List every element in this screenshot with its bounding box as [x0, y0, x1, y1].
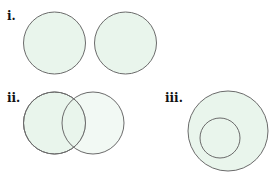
- diagram-i-label: i.: [7, 9, 16, 23]
- diagram-iii-label: iii.: [165, 91, 183, 105]
- subset-circle: [200, 118, 240, 158]
- diagram-ii-overlapping: ii.: [7, 91, 124, 154]
- diagram-i-disjoint: i.: [7, 9, 157, 74]
- diagram-iii-subset: iii.: [165, 91, 268, 171]
- set-b-circle: [95, 12, 157, 74]
- set-b-circle: [62, 92, 124, 154]
- venn-diagram-figure: i. ii. iii.: [0, 0, 272, 175]
- set-a-circle: [24, 12, 86, 74]
- diagram-ii-label: ii.: [7, 91, 20, 105]
